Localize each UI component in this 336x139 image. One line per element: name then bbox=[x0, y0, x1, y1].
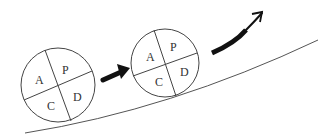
pdca-wheel-2: A P C D bbox=[131, 29, 199, 97]
quadrant-label-p: P bbox=[62, 63, 69, 77]
arrow-upward-curve bbox=[212, 12, 262, 53]
quadrant-label-a: A bbox=[35, 73, 44, 87]
quadrant-label-p: P bbox=[170, 40, 177, 54]
quadrant-label-d: D bbox=[73, 90, 82, 104]
quadrant-label-d: D bbox=[180, 65, 189, 79]
pdca-wheel-1: A P C D bbox=[21, 48, 95, 122]
arrow-between-wheels bbox=[103, 64, 130, 80]
quadrant-label-c: C bbox=[155, 75, 163, 89]
quadrant-label-a: A bbox=[146, 50, 155, 64]
quadrant-label-c: C bbox=[47, 99, 55, 113]
pdca-diagram: A P C D A P C D bbox=[0, 0, 336, 139]
